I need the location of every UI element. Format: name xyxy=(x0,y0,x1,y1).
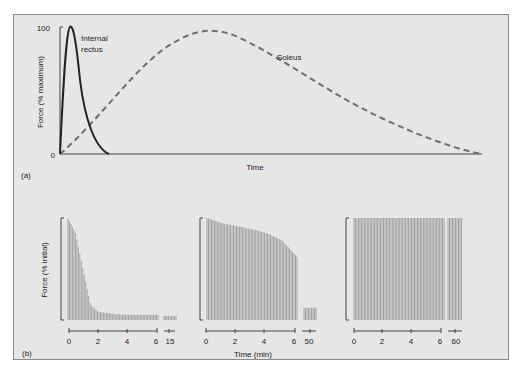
y-axis-label: Force (% maximum) xyxy=(36,56,45,128)
bracket-3 xyxy=(346,218,349,320)
bars-intermediate xyxy=(207,218,316,320)
soleus-curve xyxy=(60,31,482,154)
panel-a: 100 0 Force (% maximum) Internal rectus … xyxy=(21,24,482,180)
svg-text:50: 50 xyxy=(305,337,314,346)
bracket-1 xyxy=(61,218,64,320)
bars-fatigue-resistant xyxy=(354,218,462,320)
svg-text:2: 2 xyxy=(380,337,385,346)
panel-b: Force (% initial) 0 2 4 6 15 0 2 4 6 50 xyxy=(22,218,462,359)
svg-text:0: 0 xyxy=(67,337,72,346)
svg-text:60: 60 xyxy=(452,337,461,346)
x-axis-label: Time xyxy=(246,163,264,172)
svg-text:6: 6 xyxy=(154,337,159,346)
svg-text:4: 4 xyxy=(125,337,130,346)
svg-text:0: 0 xyxy=(352,337,357,346)
time-axes xyxy=(69,328,462,333)
figure-chart: 100 0 Force (% maximum) Internal rectus … xyxy=(0,0,523,383)
series-label-soleus: Soleus xyxy=(277,53,301,62)
tick-labels: 0 2 4 6 15 0 2 4 6 50 0 2 4 6 60 xyxy=(67,337,461,346)
svg-text:2: 2 xyxy=(233,337,238,346)
y-tick-0: 0 xyxy=(51,151,56,160)
b-y-axis-label: Force (% initial) xyxy=(40,242,49,298)
svg-text:0: 0 xyxy=(204,337,209,346)
svg-text:2: 2 xyxy=(96,337,101,346)
bracket-2 xyxy=(200,218,203,320)
panel-a-label: (a) xyxy=(21,171,31,180)
y-tick-100: 100 xyxy=(37,24,51,33)
panel-b-label: (b) xyxy=(22,349,32,358)
series-label-rectus: rectus xyxy=(81,45,103,54)
svg-text:4: 4 xyxy=(262,337,267,346)
svg-text:6: 6 xyxy=(292,337,297,346)
b-x-axis-label: Time (min) xyxy=(234,350,272,359)
svg-text:6: 6 xyxy=(438,337,443,346)
series-label-internal: Internal xyxy=(81,34,108,43)
svg-text:15: 15 xyxy=(166,337,175,346)
svg-text:4: 4 xyxy=(409,337,414,346)
bars-fast-fatigue xyxy=(68,218,176,320)
